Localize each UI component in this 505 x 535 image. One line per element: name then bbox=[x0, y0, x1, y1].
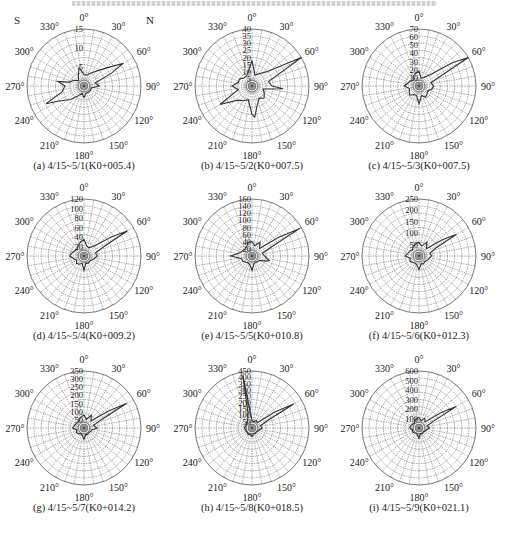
radial-tick-labels: 51015 bbox=[75, 24, 84, 72]
angle-label: 30° bbox=[280, 363, 294, 374]
angle-label: 180° bbox=[75, 320, 94, 331]
angle-label: 60° bbox=[137, 216, 151, 227]
polar-rose-chart: 0°30°60°90°120°150°180°210°240°270°300°3… bbox=[0, 180, 168, 330]
angle-label: 270° bbox=[174, 423, 193, 434]
angle-label: 90° bbox=[314, 81, 328, 92]
angle-label: 0° bbox=[415, 354, 424, 365]
radial-tick-label: 200 bbox=[405, 205, 418, 215]
angle-label: 210° bbox=[208, 140, 227, 151]
radial-tick-label: 150 bbox=[405, 217, 418, 227]
angle-label: 270° bbox=[6, 251, 25, 262]
radial-tick-label: 60 bbox=[75, 223, 84, 233]
angle-label: 210° bbox=[40, 140, 59, 151]
radial-tick-label: 40 bbox=[243, 24, 252, 34]
angle-label: 30° bbox=[447, 21, 461, 32]
polar-panel-f: 0°30°60°90°120°150°180°210°240°270°300°3… bbox=[335, 180, 503, 352]
polar-panel-e: 0°30°60°90°120°150°180°210°240°270°300°3… bbox=[168, 180, 336, 352]
panel-caption: (e) 4/15~5/5(K0+010.8) bbox=[168, 330, 336, 341]
angle-label: 120° bbox=[134, 115, 153, 126]
polar-panel-d: 0°30°60°90°120°150°180°210°240°270°300°3… bbox=[0, 180, 168, 352]
angle-label: 330° bbox=[375, 363, 394, 374]
radial-tick-labels: 50100150200250 bbox=[405, 194, 418, 250]
angle-label: 60° bbox=[305, 388, 319, 399]
polar-panel-b: 0°30°60°90°120°150°180°210°240°270°300°3… bbox=[168, 10, 336, 182]
angle-label: 330° bbox=[208, 21, 227, 32]
radial-tick-label: 50 bbox=[410, 240, 419, 250]
angle-label: 270° bbox=[341, 251, 360, 262]
radial-tick-labels: 20406080100120140160 bbox=[238, 194, 251, 254]
angle-label: 60° bbox=[305, 46, 319, 57]
polar-grid bbox=[27, 371, 141, 485]
corner-label-n: N bbox=[146, 14, 154, 26]
polar-panel-a: 0°30°60°90°120°150°180°210°240°270°300°3… bbox=[0, 10, 168, 182]
radial-tick-label: 450 bbox=[238, 366, 251, 376]
angle-label: 120° bbox=[302, 457, 321, 468]
polar-grid bbox=[195, 199, 309, 313]
radial-tick-labels: 50100150200250300350400450 bbox=[238, 366, 251, 427]
angle-label: 180° bbox=[243, 150, 262, 161]
angle-label: 270° bbox=[341, 423, 360, 434]
polar-grid bbox=[27, 199, 141, 313]
panel-caption: (d) 4/15~5/4(K0+009.2) bbox=[0, 330, 168, 341]
polar-grid bbox=[195, 29, 309, 143]
radial-tick-label: 80 bbox=[75, 213, 84, 223]
angle-label: 120° bbox=[134, 457, 153, 468]
angle-label: 330° bbox=[40, 363, 59, 374]
radial-tick-label: 250 bbox=[405, 194, 418, 204]
angle-label: 300° bbox=[183, 216, 202, 227]
angle-label: 0° bbox=[80, 12, 89, 23]
angle-label: 150° bbox=[277, 310, 296, 321]
radial-tick-label: 160 bbox=[238, 194, 251, 204]
radial-tick-label: 100 bbox=[405, 228, 418, 238]
angle-label: 330° bbox=[208, 191, 227, 202]
angle-label: 180° bbox=[243, 492, 262, 503]
angle-label: 30° bbox=[447, 363, 461, 374]
angle-label: 150° bbox=[444, 140, 463, 151]
angle-label: 240° bbox=[350, 285, 369, 296]
polar-rose-chart: 0°30°60°90°120°150°180°210°240°270°300°3… bbox=[168, 352, 336, 502]
panel-caption: (h) 4/15~5/8(K0+018.5) bbox=[168, 502, 336, 513]
angle-label: 330° bbox=[375, 21, 394, 32]
angle-label: 180° bbox=[410, 150, 429, 161]
angle-label: 330° bbox=[40, 191, 59, 202]
angle-label: 90° bbox=[481, 251, 495, 262]
polar-rose-chart: 0°30°60°90°120°150°180°210°240°270°300°3… bbox=[335, 352, 503, 502]
angle-label: 240° bbox=[15, 285, 34, 296]
angle-label: 150° bbox=[109, 140, 128, 151]
polar-rose-chart: 0°30°60°90°120°150°180°210°240°270°300°3… bbox=[168, 180, 336, 330]
angle-label: 60° bbox=[472, 388, 486, 399]
polar-panel-g: 0°30°60°90°120°150°180°210°240°270°300°3… bbox=[0, 352, 168, 524]
angle-label: 0° bbox=[415, 182, 424, 193]
angle-label: 180° bbox=[75, 492, 94, 503]
panel-caption: (c) 4/15~5/3(K0+007.5) bbox=[335, 160, 503, 171]
angle-label: 60° bbox=[137, 46, 151, 57]
angle-label: 30° bbox=[280, 191, 294, 202]
panel-caption: (b) 4/15~5/2(K0+007.5) bbox=[168, 160, 336, 171]
radial-tick-label: 400 bbox=[405, 385, 418, 395]
panel-caption: (a) 4/15~5/1(K0+005.4) bbox=[0, 160, 168, 171]
polar-grid bbox=[362, 199, 476, 313]
angle-label: 240° bbox=[15, 457, 34, 468]
angle-label: 90° bbox=[314, 423, 328, 434]
angle-label: 210° bbox=[208, 482, 227, 493]
angle-label: 150° bbox=[109, 310, 128, 321]
radial-tick-labels: 100200300400500600 bbox=[405, 366, 418, 424]
angle-label: 300° bbox=[183, 46, 202, 57]
polar-grid bbox=[27, 29, 141, 143]
polar-grid bbox=[362, 371, 476, 485]
polar-panel-h: 0°30°60°90°120°150°180°210°240°270°300°3… bbox=[168, 352, 336, 524]
angle-label: 270° bbox=[174, 251, 193, 262]
angle-label: 270° bbox=[6, 81, 25, 92]
angle-label: 120° bbox=[302, 285, 321, 296]
angle-label: 300° bbox=[15, 388, 34, 399]
radial-tick-label: 200 bbox=[405, 404, 418, 414]
radial-tick-label: 10 bbox=[75, 43, 84, 53]
angle-label: 150° bbox=[277, 140, 296, 151]
corner-label-s: S bbox=[14, 14, 20, 26]
angle-label: 90° bbox=[146, 81, 160, 92]
radial-tick-label: 15 bbox=[75, 24, 84, 34]
angle-label: 60° bbox=[472, 216, 486, 227]
panel-caption: (f) 4/15~5/6(K0+012.3) bbox=[335, 330, 503, 341]
polar-panel-c: 0°30°60°90°120°150°180°210°240°270°300°3… bbox=[335, 10, 503, 182]
angle-label: 300° bbox=[183, 388, 202, 399]
